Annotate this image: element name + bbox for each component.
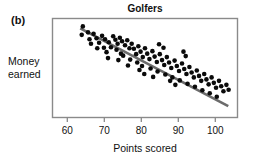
x-axis-tick-labels: 60708090100 (62, 125, 224, 136)
data-point (148, 66, 153, 71)
data-point (150, 49, 155, 54)
data-point (172, 58, 177, 63)
data-point (138, 49, 143, 54)
data-point (163, 72, 168, 77)
data-point (89, 41, 94, 46)
data-point (158, 52, 163, 57)
x-axis-label: Points scored (52, 142, 238, 154)
data-point (103, 37, 108, 42)
data-point (128, 57, 133, 62)
x-axis-tick-label: 70 (99, 125, 111, 136)
data-point (114, 47, 119, 52)
data-point (155, 60, 160, 65)
data-point (79, 33, 84, 38)
data-point (197, 74, 202, 79)
data-point (152, 54, 157, 59)
data-point (200, 88, 205, 93)
data-point (183, 54, 188, 59)
data-point (219, 84, 224, 89)
data-point (185, 82, 190, 87)
data-point (165, 55, 170, 60)
x-axis-tick-label: 60 (62, 125, 74, 136)
data-point (167, 60, 172, 65)
data-point (182, 67, 187, 72)
data-point (134, 52, 139, 57)
data-point (212, 81, 217, 86)
data-point (95, 46, 100, 51)
data-point (207, 91, 212, 96)
data-point (169, 66, 174, 71)
data-point (125, 38, 130, 43)
data-point (106, 40, 111, 45)
data-point (175, 64, 180, 69)
x-axis-tick-label: 100 (207, 125, 224, 136)
data-point (87, 37, 92, 42)
data-point (116, 58, 121, 63)
data-point (137, 68, 142, 73)
data-point (168, 79, 173, 84)
x-axis-tick-label: 90 (173, 125, 185, 136)
data-point (147, 57, 152, 62)
data-point (184, 72, 189, 77)
data-point (214, 86, 219, 91)
data-point (192, 75, 197, 80)
data-point (127, 46, 132, 51)
data-point (140, 55, 145, 60)
data-point (199, 79, 204, 84)
x-axis-tick-label: 80 (136, 125, 148, 136)
data-point (97, 40, 102, 45)
data-point (121, 53, 126, 58)
data-point (221, 89, 226, 94)
data-point (160, 58, 165, 63)
data-point (129, 41, 134, 46)
scatter-plot: 60708090100 (0, 0, 253, 162)
data-point (140, 64, 145, 69)
data-point (155, 69, 160, 74)
data-point (217, 79, 222, 84)
data-point (145, 51, 150, 56)
data-point (86, 30, 91, 35)
data-point (120, 39, 125, 44)
data-point (142, 72, 147, 77)
data-point (106, 56, 111, 61)
data-point (177, 69, 182, 74)
data-point (162, 63, 167, 68)
data-point (177, 78, 182, 83)
data-point (151, 75, 156, 80)
data-point (226, 87, 231, 92)
data-point (157, 42, 162, 47)
data-point (143, 46, 148, 51)
data-point (189, 70, 194, 75)
data-point (206, 82, 211, 87)
data-point (209, 75, 214, 80)
data-point (180, 61, 185, 66)
data-point (104, 50, 109, 55)
data-point (204, 77, 209, 82)
data-point (173, 83, 178, 88)
data-point (109, 45, 114, 50)
data-point (214, 94, 219, 99)
data-point (193, 85, 198, 90)
data-point (94, 36, 99, 41)
data-point (102, 45, 107, 50)
data-point (195, 68, 200, 73)
figure-panel: (b) Golfers Money earned 60708090100 Poi… (0, 0, 253, 162)
data-point (123, 43, 128, 48)
data-point (135, 60, 140, 65)
data-point (113, 37, 118, 42)
data-point (187, 65, 192, 70)
data-point (126, 63, 131, 68)
data-point (224, 83, 229, 88)
data-point (181, 49, 186, 54)
data-point (136, 44, 141, 49)
data-point (161, 45, 166, 50)
data-point (81, 24, 86, 29)
data-point (132, 46, 137, 51)
data-point (202, 72, 207, 77)
data-point (91, 32, 96, 37)
data-point (115, 41, 120, 46)
